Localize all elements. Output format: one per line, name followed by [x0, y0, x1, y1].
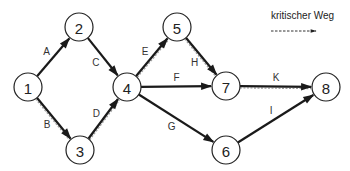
node-7: 7 [212, 72, 240, 100]
edge-label: A [43, 46, 50, 57]
node-4: 4 [113, 73, 141, 101]
edge-label: G [168, 121, 176, 132]
edge-arrow [37, 38, 69, 76]
edge-label: B [44, 119, 51, 130]
edge-arrow [139, 95, 214, 142]
critical-path-marker [185, 39, 215, 76]
node-5: 5 [163, 13, 191, 41]
nodes-layer: 12345678 [14, 13, 340, 164]
critical-path-marker [90, 100, 120, 140]
edge-c: C [88, 38, 118, 75]
edge-f: F [141, 72, 211, 87]
edge-arrow [240, 86, 311, 87]
edge-d: D [88, 99, 119, 140]
edge-label: C [92, 57, 99, 68]
edges-layer: ABCDEFGHIK [36, 38, 314, 143]
edge-g: G [139, 95, 214, 142]
edge-label: F [173, 72, 179, 83]
edge-arrow [37, 98, 71, 139]
edge-arrow [238, 95, 313, 143]
edge-a: A [37, 38, 69, 76]
node-label: 5 [173, 20, 181, 37]
edge-i: I [238, 95, 313, 143]
edge-e: E [136, 39, 169, 78]
node-label: 2 [75, 20, 83, 37]
node-6: 6 [212, 136, 240, 164]
node-label: 4 [123, 80, 131, 97]
node-1: 1 [14, 73, 42, 101]
edge-label: D [93, 108, 100, 119]
edge-label: E [142, 46, 149, 57]
edge-k: K [240, 72, 311, 89]
legend-label: kritischer Weg [271, 10, 334, 21]
node-label: 7 [222, 79, 230, 96]
node-label: 3 [76, 143, 84, 160]
node-label: 1 [24, 80, 32, 97]
critical-path-marker [240, 88, 311, 89]
edge-label: K [273, 72, 280, 83]
node-label: 8 [322, 80, 330, 97]
edge-label: I [270, 105, 273, 116]
node-8: 8 [312, 73, 340, 101]
node-3: 3 [66, 136, 94, 164]
legend: kritischer Weg [271, 10, 334, 31]
diagram-svg: ABCDEFGHIK 12345678 kritischer Weg [0, 0, 350, 171]
edge-b: B [36, 98, 71, 140]
network-diagram: ABCDEFGHIK 12345678 kritischer Weg [0, 0, 350, 171]
edge-arrow [141, 86, 211, 87]
node-2: 2 [65, 13, 93, 41]
node-label: 6 [222, 143, 230, 160]
edge-h: H [185, 38, 217, 76]
critical-path-marker [36, 99, 70, 140]
edge-label: H [191, 57, 198, 68]
edge-arrow [136, 39, 167, 77]
edge-arrow [88, 99, 118, 139]
